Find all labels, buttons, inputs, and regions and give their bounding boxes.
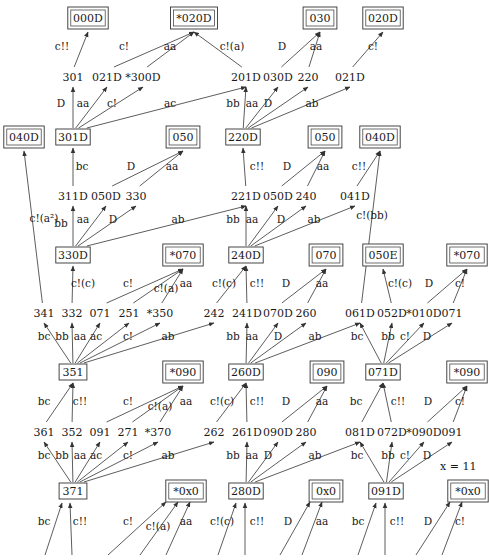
node-090d: 090D: [263, 426, 293, 439]
node-061d: 061D: [345, 307, 375, 320]
node-091_b: 091: [442, 426, 463, 439]
node-label: 341: [34, 307, 55, 320]
node-090_a: *090: [163, 361, 203, 383]
edge-label: bb: [54, 217, 68, 229]
node-label: 081D: [345, 426, 375, 439]
node-label: 301: [63, 71, 84, 84]
edge-361-to-351: [46, 383, 73, 422]
edge-label: bc: [38, 515, 51, 527]
edge-261d-to-260d: [246, 383, 247, 422]
node-050d_a: 050D: [91, 190, 121, 203]
edge-label: D: [423, 449, 431, 461]
edge-330d-to-050d_a: [76, 206, 106, 246]
node-label: 050: [173, 131, 194, 144]
node-071_b: 071: [442, 307, 463, 320]
edge-label: c!: [123, 515, 133, 527]
node-021d_b: 021D: [335, 71, 365, 84]
edge-260d-to-070d: [249, 323, 278, 363]
parameter-note: x = 11: [440, 460, 476, 473]
edge-label: D: [424, 395, 432, 407]
node-label: 040D: [9, 131, 39, 144]
edge-label: c!: [123, 330, 133, 342]
edge-label: aa: [74, 449, 87, 461]
edge-label: c!: [400, 449, 410, 461]
node-052d: 052D: [377, 307, 407, 320]
node-label: 050D: [91, 190, 121, 203]
node-271: 271: [118, 426, 139, 439]
edge-351-to-332: [72, 323, 73, 363]
edge-label: c!!: [250, 395, 264, 407]
edge-label: c!!: [250, 160, 264, 172]
edge-label: aa: [164, 40, 177, 52]
node-330: 330: [126, 190, 147, 203]
edge-label: c!(a): [146, 520, 171, 532]
edge-label: bb: [55, 330, 69, 342]
edge-371-to-361: [44, 442, 71, 482]
edge-280d-to-261d: [246, 442, 247, 482]
node-label: 280D: [231, 485, 261, 498]
edge-label: aa: [74, 330, 87, 342]
edge-label: D: [278, 40, 286, 52]
node-240: 240: [296, 190, 317, 203]
node-label: *070: [454, 249, 481, 262]
node-label: 352: [62, 426, 83, 439]
edge-label: c!: [400, 330, 410, 342]
node-242: 242: [204, 307, 225, 320]
edge-label: D: [283, 160, 291, 172]
edge-221d-to-220d: [243, 148, 246, 186]
edge-071d-to-010d: [386, 323, 424, 363]
edge-label: c!(c): [71, 277, 95, 289]
node-021d_a: 021D: [92, 71, 122, 84]
node-260d: 260D: [229, 364, 263, 380]
node-280: 280: [296, 426, 317, 439]
edge-label: c!: [119, 40, 129, 52]
node-071_a: 071: [90, 307, 111, 320]
edge-label: D: [284, 515, 292, 527]
edge-label: bc: [38, 395, 51, 407]
node-label: 050E: [368, 249, 397, 262]
edge-incoming: [302, 502, 322, 555]
node-070d: 070D: [263, 307, 293, 320]
edge-071d-to-052d: [384, 323, 392, 363]
node-090_b: 090: [310, 361, 344, 383]
edge-label: c!: [455, 277, 465, 289]
node-070_c: *070: [447, 244, 487, 266]
node-label: 221D: [231, 190, 261, 203]
edge-label: c!(c): [210, 515, 234, 527]
node-label: 240: [296, 190, 317, 203]
node-081d: 081D: [345, 426, 375, 439]
node-label: 061D: [345, 307, 375, 320]
edge-label: bc: [76, 160, 89, 172]
edge-label: aa: [246, 330, 259, 342]
node-label: 301D: [58, 131, 88, 144]
edge-label: c!!: [352, 160, 366, 172]
node-label: *370: [145, 426, 172, 439]
node-072d: 072D: [377, 426, 407, 439]
node-220: 220: [298, 71, 319, 84]
node-0x0_b: 0x0: [309, 480, 343, 502]
edge-label: c!: [455, 395, 465, 407]
edge-label: c!(c): [212, 277, 236, 289]
edges-layer: [24, 32, 467, 555]
node-label: 330D: [58, 249, 88, 262]
edge-label: aa: [180, 515, 193, 527]
node-label: 251: [119, 307, 140, 320]
edge-label: aa: [166, 160, 179, 172]
node-260: 260: [296, 307, 317, 320]
edge-371-to-091_a: [75, 442, 100, 482]
node-050_b: 050: [308, 126, 342, 148]
node-301d: 301D: [56, 129, 90, 145]
node-label: 220: [298, 71, 319, 84]
node-label: 072D: [377, 426, 407, 439]
node-090_c: *090: [447, 361, 487, 383]
node-030: 030: [303, 7, 337, 29]
edge-label: aa: [316, 395, 329, 407]
edge-241d-to-240d: [246, 266, 247, 303]
node-label: *300D: [125, 71, 160, 84]
node-label: 201D: [231, 71, 261, 84]
node-label: 050: [315, 131, 336, 144]
edge-label: bc: [351, 449, 364, 461]
edge-061d-to-040d_r: [362, 151, 380, 303]
edge-label: c!!: [250, 515, 264, 527]
edge-label: ab: [309, 330, 322, 342]
